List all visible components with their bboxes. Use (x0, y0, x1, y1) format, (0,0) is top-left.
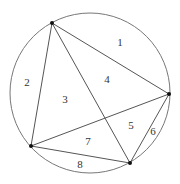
region-label-2: 2 (24, 76, 30, 88)
region-label-4: 4 (104, 73, 110, 85)
region-label-6: 6 (150, 125, 156, 137)
region-label-3: 3 (62, 93, 68, 105)
region-label-8: 8 (77, 158, 83, 170)
chord-AB (52, 23, 169, 94)
vertex-B (167, 92, 171, 96)
chord-BD (31, 94, 169, 146)
diagram-svg: 1 2 3 4 5 6 7 8 (0, 0, 180, 184)
region-label-5: 5 (128, 119, 134, 131)
outer-circle (10, 13, 170, 173)
region-label-1: 1 (117, 36, 123, 48)
vertex-D (29, 144, 33, 148)
chords-group (31, 23, 169, 163)
chord-AD (31, 23, 52, 146)
region-labels-group: 1 2 3 4 5 6 7 8 (24, 36, 156, 170)
region-label-7: 7 (85, 135, 91, 147)
points-group (29, 21, 171, 165)
vertex-C (128, 161, 132, 165)
circle-partition-diagram: 1 2 3 4 5 6 7 8 (0, 0, 180, 184)
vertex-A (50, 21, 54, 25)
